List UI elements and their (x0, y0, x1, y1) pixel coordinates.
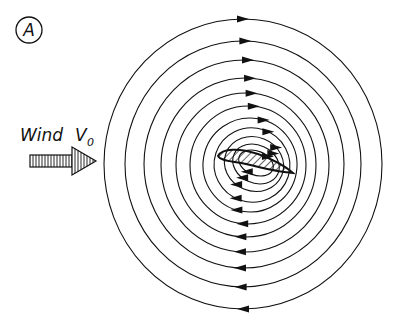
flow-arrow-right-icon (270, 144, 282, 151)
flow-arrow-left-icon (237, 306, 249, 313)
wind-label: Wind V 0 (20, 125, 94, 149)
flow-arrow-right-icon (244, 75, 256, 82)
flow-arrow-right-icon (242, 57, 254, 64)
circulation-diagram: A Wind V 0 (0, 0, 412, 322)
flow-arrow-left-icon (230, 181, 242, 188)
flow-arrow-right-icon (258, 117, 270, 124)
velocity-subscript: 0 (87, 136, 94, 149)
panel-label-text: A (22, 20, 35, 40)
flow-arrow-left-icon (234, 248, 246, 255)
panel-label: A (16, 17, 42, 43)
flow-arrow-right-icon (248, 103, 260, 110)
flow-arrow-right-icon (237, 16, 249, 23)
airfoil (218, 150, 293, 173)
flow-arrow-left-icon (235, 283, 247, 290)
flow-arrow-left-icon (234, 233, 246, 240)
flow-arrow-left-icon (241, 168, 253, 175)
flow-arrow-left-icon (236, 220, 248, 227)
wind-arrow-icon (30, 147, 96, 175)
flow-arrow-right-icon (239, 38, 251, 45)
flow-arrow-left-icon (236, 174, 248, 181)
flow-arrow-right-icon (246, 90, 258, 97)
wind-label-text: Wind (20, 125, 63, 145)
flow-arrow-left-icon (230, 206, 242, 213)
flow-arrow-left-icon (234, 264, 246, 271)
